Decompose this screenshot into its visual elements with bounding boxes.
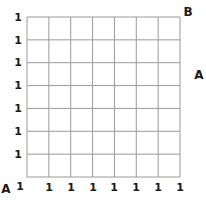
y-label: 1 [14,57,22,68]
x-label: 1 [176,182,184,193]
y-label: 1 [14,12,22,23]
x-label: 1 [154,182,162,193]
corner-label-a: A [1,183,10,195]
x-label: 1 [67,182,75,193]
corner-label-b: B [183,6,192,18]
y-label: 1 [14,35,22,46]
side-label-a: A [194,69,203,81]
y-label: 1 [14,149,22,160]
y-label: 1 [14,103,22,114]
y-label: 1 [14,80,22,91]
x-label: 1 [110,182,118,193]
x-label: 1 [16,181,24,192]
x-label: 1 [45,182,53,193]
grid [0,0,206,201]
x-label: 1 [89,182,97,193]
x-label: 1 [132,182,140,193]
y-label: 1 [14,126,22,137]
